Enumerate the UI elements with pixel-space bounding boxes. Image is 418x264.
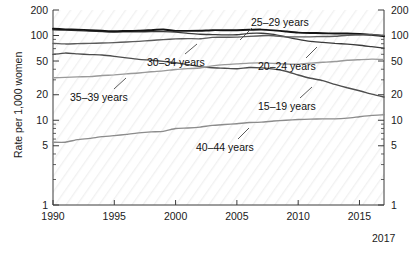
y-axis-tick-label-left: 100 <box>14 30 48 41</box>
y-axis-tick-label-left: 50 <box>14 56 48 67</box>
x-axis-tick-label: 1995 <box>92 211 136 222</box>
y-axis-tick-label-left: 20 <box>14 89 48 100</box>
series-annotation-label: 15–19 years <box>258 101 316 112</box>
y-axis-tick-label-right: 1 <box>391 200 397 211</box>
chart-container: Rate per 1,000 women 1155101020205050100… <box>0 0 418 264</box>
series-annotation-label: 25–29 years <box>251 17 309 28</box>
y-axis-tick-label-left: 5 <box>14 140 48 151</box>
series-annotation-label: 20–24 years <box>258 61 316 72</box>
x-axis-tick-label: 2005 <box>215 211 259 222</box>
y-axis-tick-label-right: 200 <box>391 5 409 16</box>
y-axis-tick-label-left: 200 <box>14 5 48 16</box>
x-axis-tick-label: 2010 <box>276 211 320 222</box>
chart-plot-area <box>0 0 418 264</box>
y-axis-tick-label-right: 5 <box>391 140 397 151</box>
series-annotation-label: 40–44 years <box>196 142 254 153</box>
plot-background <box>53 10 384 205</box>
y-axis-tick-label-right: 20 <box>391 89 403 100</box>
x-axis-end-year-label: 2017 <box>372 232 395 244</box>
series-annotation-label: 30–34 years <box>147 57 205 68</box>
x-axis-tick-label: 2000 <box>154 211 198 222</box>
y-axis-tick-label-right: 100 <box>391 30 409 41</box>
y-axis-tick-label-right: 50 <box>391 56 403 67</box>
x-axis-tick-label: 2015 <box>337 211 381 222</box>
x-axis-tick-label: 1990 <box>31 211 75 222</box>
y-axis-tick-label-right: 10 <box>391 115 403 126</box>
series-annotation-label: 35–39 years <box>70 92 128 103</box>
y-axis-tick-label-left: 1 <box>14 200 48 211</box>
y-axis-tick-label-left: 10 <box>14 115 48 126</box>
